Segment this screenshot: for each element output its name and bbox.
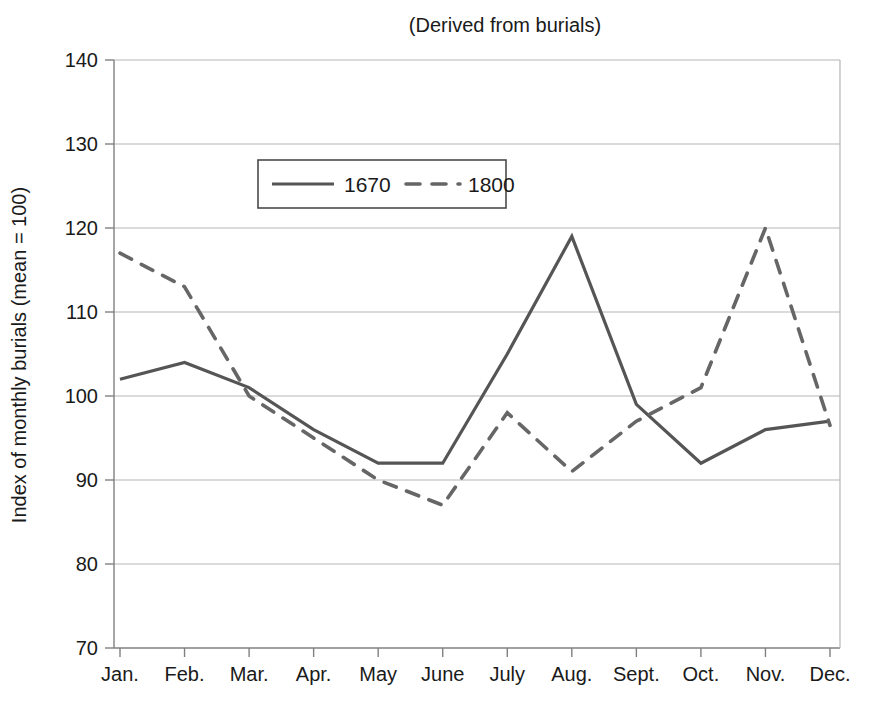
x-tick-label: Nov. bbox=[746, 663, 786, 685]
y-tick-label: 130 bbox=[65, 133, 98, 155]
y-tick-label: 90 bbox=[76, 469, 98, 491]
y-tick-label: 140 bbox=[65, 49, 98, 71]
legend-label-1800: 1800 bbox=[468, 173, 515, 196]
y-tick-label: 100 bbox=[65, 385, 98, 407]
y-tick-label: 80 bbox=[76, 553, 98, 575]
x-tick-label: Jan. bbox=[101, 663, 139, 685]
legend-label-1670: 1670 bbox=[344, 173, 391, 196]
y-tick-label: 120 bbox=[65, 217, 98, 239]
x-tick-label: Oct. bbox=[683, 663, 720, 685]
x-tick-label: Feb. bbox=[165, 663, 205, 685]
x-tick-label: Sept. bbox=[613, 663, 660, 685]
x-tick-label: July bbox=[489, 663, 525, 685]
seasonality-line-chart: (Derived from burials) Index of monthly … bbox=[0, 0, 872, 710]
chart-title: (Derived from burials) bbox=[409, 14, 601, 36]
x-tick-label: May bbox=[359, 663, 397, 685]
chart-container: (Derived from burials) Index of monthly … bbox=[0, 0, 872, 710]
x-tick-label: June bbox=[421, 663, 464, 685]
chart-legend: 16701800 bbox=[258, 160, 515, 208]
y-tick-label: 70 bbox=[76, 637, 98, 659]
x-tick-label: Dec. bbox=[809, 663, 850, 685]
y-axis-label: Index of monthly burials (mean = 100) bbox=[8, 187, 30, 523]
chart-background bbox=[0, 0, 872, 710]
y-tick-label: 110 bbox=[66, 301, 98, 323]
x-tick-label: Mar. bbox=[230, 663, 269, 685]
x-tick-label: Aug. bbox=[551, 663, 592, 685]
x-tick-label: Apr. bbox=[296, 663, 332, 685]
